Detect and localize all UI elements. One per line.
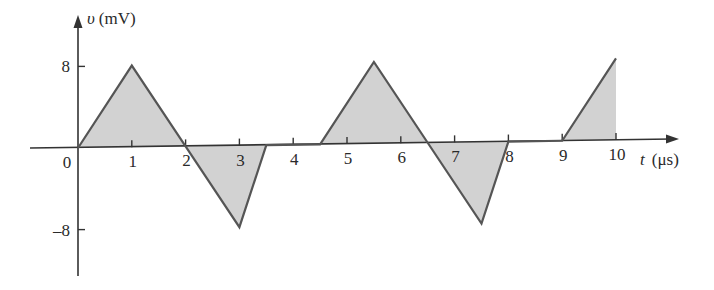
shaded-region xyxy=(428,142,509,224)
waveform-chart: 012345678910 8–8 υ(mV) t(μs) xyxy=(0,0,714,290)
y-tick-label: –8 xyxy=(52,221,70,240)
x-tick-label: 5 xyxy=(344,149,353,168)
x-tick-label: 3 xyxy=(236,151,245,170)
x-tick-label: 1 xyxy=(129,152,138,171)
x-tick-label: 10 xyxy=(609,145,626,164)
y-ticks: 8–8 xyxy=(52,57,85,239)
x-tick-label: 9 xyxy=(559,146,568,165)
x-axis-arrow-icon xyxy=(666,135,679,144)
x-tick-label: 4 xyxy=(290,150,299,169)
shaded-region xyxy=(186,145,267,227)
x-tick-label: 7 xyxy=(451,147,460,166)
x-axis-label: t(μs) xyxy=(640,150,679,169)
x-tick-label: 6 xyxy=(398,148,407,167)
shaded-region xyxy=(78,66,186,148)
y-tick-label: 8 xyxy=(62,57,71,76)
y-axis-label: υ(mV) xyxy=(87,9,136,28)
x-tick-label: 0 xyxy=(63,153,72,172)
shaded-region xyxy=(320,62,428,144)
y-axis-arrow-icon xyxy=(74,15,83,28)
